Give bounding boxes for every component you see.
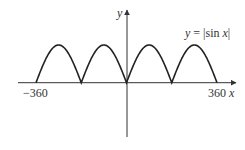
x-tick-max-label: 360: [208, 86, 226, 100]
function-label: y = |sin x|: [184, 26, 230, 40]
function-label-close: |: [228, 26, 230, 40]
x-axis-label: x: [228, 86, 235, 100]
x-tick-min-label: −360: [23, 86, 48, 100]
abs-sine-chart: y x −360 360 y = |sin x|: [0, 0, 245, 150]
function-label-eq: = |sin: [190, 26, 222, 40]
y-axis-label: y: [116, 6, 123, 20]
